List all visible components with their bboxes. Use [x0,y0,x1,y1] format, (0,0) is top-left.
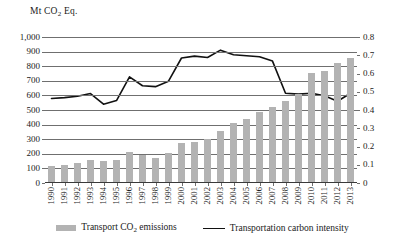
y-axis-left-tick-label: 900 [27,47,41,56]
y-axis-right-tick-label: 0.7 [363,51,374,60]
y-axis-left-tick [42,66,45,67]
y-axis-right-tick-label: 0.8 [363,33,374,42]
legend-item-transportation-carbon-intensity: Transportation carbon intensity [203,223,349,233]
x-axis-tick [104,183,105,186]
x-axis-label-2013: 2013 [346,187,355,204]
x-axis-tick [78,183,79,186]
x-axis-tick [247,183,248,186]
x-axis-tick [52,183,53,186]
bar-2007 [269,107,275,182]
gridline [45,37,357,38]
y-axis-right-tick [357,110,360,111]
y-axis-left-tick-label: 500 [27,106,41,115]
x-axis-label-2008: 2008 [281,187,290,204]
y-axis-right-tick [357,183,360,184]
x-axis-label-1990: 1990 [47,187,56,204]
y-axis-left-tick [42,154,45,155]
bar-1998 [152,158,158,182]
x-axis-label-1993: 1993 [86,187,95,204]
y-axis-left-tick [42,37,45,38]
y-axis-left-tick-label: 200 [27,149,41,158]
y-axis-left-tick-label: 1,000 [20,33,40,42]
x-axis-label-1991: 1991 [60,187,69,204]
legend-item-transport-co2-emissions: Transport CO2 emissions [56,222,177,234]
x-axis-tick [65,183,66,186]
x-axis-label-2006: 2006 [255,187,264,204]
x-axis-label-2005: 2005 [242,187,251,204]
x-axis-tick [338,183,339,186]
x-axis-tick [91,183,92,186]
legend-bar-swatch-icon [56,225,76,231]
x-axis-tick [325,183,326,186]
y-axis-left-tick [42,168,45,169]
x-axis-line [45,182,357,183]
y-axis-right-tick-label: 0.3 [363,124,374,133]
y-axis-left-tick-label: 100 [27,164,41,173]
bar-1999 [165,153,171,182]
y-axis-left-tick-label: 400 [27,120,41,129]
y-axis-left-tick [42,95,45,96]
y-axis-right-tick-label: 0.5 [363,87,374,96]
x-axis-tick [312,183,313,186]
bar-2006 [256,112,262,182]
x-axis-label-2011: 2011 [320,187,329,204]
x-axis-tick [234,183,235,186]
bar-2003 [217,131,223,182]
x-axis-label-1996: 1996 [125,187,134,204]
chart-legend: Transport CO2 emissions Transportation c… [0,222,405,234]
x-axis-label-1999: 1999 [164,187,173,204]
y-axis-right-tick-label: 0.6 [363,69,374,78]
x-axis-tick [299,183,300,186]
bar-1995 [113,160,119,182]
y-axis-right-tick-label: 0.1 [363,160,374,169]
y-axis-title-suffix: Eq. [61,6,77,16]
x-axis-label-2004: 2004 [229,187,238,204]
bar-1992 [74,163,80,182]
y-axis-left-tick-label: 0 [36,179,41,188]
bar-2012 [334,63,340,182]
bar-1990 [48,166,54,182]
x-axis-tick [195,183,196,186]
legend-line-swatch-icon [203,228,225,229]
legend-label-emissions: Transport CO2 emissions [81,222,177,234]
bar-1993 [87,160,93,182]
x-axis-label-2012: 2012 [333,187,342,204]
x-axis-label-2000: 2000 [177,187,186,204]
x-axis-label-2001: 2001 [190,187,199,204]
bar-1996 [126,152,132,182]
y-axis-title: Mt CO2 Eq. [30,6,77,18]
legend-label-intensity: Transportation carbon intensity [230,223,349,233]
y-axis-left-tick-label: 300 [27,135,41,144]
y-axis-left-tick [42,110,45,111]
x-axis-tick [130,183,131,186]
y-axis-left-tick [42,81,45,82]
x-axis-tick [182,183,183,186]
bar-2004 [230,123,236,182]
y-axis-right-tick [357,92,360,93]
y-axis-right-tick-label: 0.4 [363,106,374,115]
y-axis-right-tick [357,128,360,129]
bar-2002 [204,139,210,182]
gridline [45,66,357,67]
y-axis-right-tick [357,37,360,38]
y-axis-left-tick [42,125,45,126]
y-axis-left-tick-label: 800 [27,62,41,71]
bar-2005 [243,119,249,182]
x-axis-label-1998: 1998 [151,187,160,204]
bar-2011 [321,71,327,182]
y-axis-right-tick [357,165,360,166]
bar-2000 [178,143,184,182]
y-axis-right-tick-label: 0 [363,179,368,188]
y-axis-right-tick [357,147,360,148]
y-axis-left-tick [42,139,45,140]
gridline [45,52,357,53]
bar-2001 [191,142,197,182]
bar-1991 [61,165,67,182]
y-axis-left-tick-label: 600 [27,91,41,100]
x-axis-tick [169,183,170,186]
y-axis-right-tick [357,55,360,56]
x-axis-tick [156,183,157,186]
x-axis-tick [117,183,118,186]
x-axis-label-1994: 1994 [99,187,108,204]
x-axis-label-2002: 2002 [203,187,212,204]
